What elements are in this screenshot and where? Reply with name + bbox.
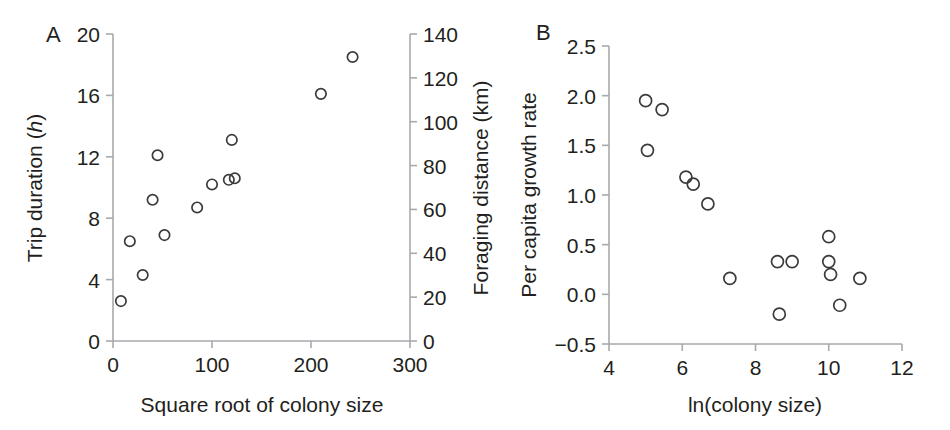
data-point xyxy=(773,308,785,320)
data-point xyxy=(834,299,846,311)
data-point xyxy=(854,272,866,284)
panel-b-ytick-2-0: 2.0 xyxy=(567,85,596,108)
panel-a-xtick-300: 300 xyxy=(392,353,427,376)
data-point xyxy=(680,171,692,183)
panel-b-ytick-0-5: 0.5 xyxy=(567,234,596,257)
panel-a-ytick-right-20: 20 xyxy=(423,286,446,309)
panel-a-left-axis-title: Trip duration (h) xyxy=(23,114,46,263)
panel-b-xtick-4: 4 xyxy=(603,356,615,379)
panel-b-ytick-1-5: 1.5 xyxy=(567,134,596,157)
panel-b-plot: B 2.5 2.0 1.5 1.0 0.5 0.0 −0.5 xyxy=(500,0,950,430)
svg-text:Trip duration (h): Trip duration (h) xyxy=(23,114,46,263)
panel-a-x-tick-labels: 0 100 200 300 xyxy=(107,353,427,376)
panel-b-ytick-0-0: 0.0 xyxy=(567,283,596,306)
data-point xyxy=(825,268,837,280)
data-point xyxy=(724,272,736,284)
data-point xyxy=(192,202,202,212)
data-point xyxy=(702,198,714,210)
panel-a-ytick-right-100: 100 xyxy=(423,111,458,134)
panel-a-xtick-0: 0 xyxy=(107,353,119,376)
panel-b-ytick-neg0-5: −0.5 xyxy=(555,333,596,356)
panel-b-xtick-6: 6 xyxy=(676,356,688,379)
data-point xyxy=(207,179,217,189)
data-point xyxy=(147,195,157,205)
panel-b-x-ticks xyxy=(609,344,902,351)
panel-a-ytick-right-0: 0 xyxy=(423,330,435,353)
data-point xyxy=(823,256,835,268)
panel-a-x-ticks xyxy=(113,341,410,348)
panel-a-xtick-100: 100 xyxy=(194,353,229,376)
panel-a-ytick-right-140: 140 xyxy=(423,23,458,46)
panel-a-ytick-8: 8 xyxy=(88,207,100,230)
panel-a-right-tick-labels: 140 120 100 80 60 40 20 0 xyxy=(423,23,458,353)
panel-a-letter: A xyxy=(46,22,61,47)
panel-a-ytick-right-40: 40 xyxy=(423,242,446,265)
panel-b-x-axis-title: ln(colony size) xyxy=(688,393,822,416)
panel-a-left-tick-labels: 20 16 12 8 4 0 xyxy=(77,23,101,353)
panel-a-ytick-0: 0 xyxy=(88,330,100,353)
panel-a-ytick-16: 16 xyxy=(77,84,100,107)
data-point xyxy=(138,270,148,280)
panel-b-xtick-8: 8 xyxy=(750,356,762,379)
data-point xyxy=(656,104,668,116)
panel-b-xtick-10: 10 xyxy=(817,356,840,379)
data-point xyxy=(125,236,135,246)
panel-b-letter: B xyxy=(536,20,551,45)
panel-b-x-tick-labels: 4 6 8 10 12 xyxy=(603,356,914,379)
panel-a-ytick-right-120: 120 xyxy=(423,67,458,90)
panel-a-ytick-20: 20 xyxy=(77,23,100,46)
data-point xyxy=(771,256,783,268)
panel-a-ytick-4: 4 xyxy=(88,269,100,292)
data-point xyxy=(823,231,835,243)
panel-b: B 2.5 2.0 1.5 1.0 0.5 0.0 −0.5 xyxy=(500,0,950,430)
svg-text:Foraging distance (km): Foraging distance (km) xyxy=(469,81,492,296)
panel-b-y-axis-title: Per capita growth rate xyxy=(517,92,540,297)
panel-b-data-points xyxy=(640,95,866,321)
data-point xyxy=(316,89,326,99)
data-point xyxy=(347,52,357,62)
data-point xyxy=(641,144,653,156)
panel-a-right-ticks xyxy=(410,34,417,341)
panel-b-ytick-1-0: 1.0 xyxy=(567,184,596,207)
panel-a-ytick-right-80: 80 xyxy=(423,155,446,178)
panel-a-plot: A 20 16 12 8 4 0 xyxy=(0,0,500,430)
panel-a-right-axis-title: Foraging distance (km) xyxy=(469,81,492,296)
panel-a-left-ticks xyxy=(106,34,113,341)
panel-b-y-ticks xyxy=(602,46,609,344)
panel-a-data-points xyxy=(116,52,358,306)
panel-b-y-tick-labels: 2.5 2.0 1.5 1.0 0.5 0.0 −0.5 xyxy=(555,35,596,356)
svg-text:Per capita growth rate: Per capita growth rate xyxy=(517,92,540,297)
data-point xyxy=(640,95,652,107)
data-point xyxy=(227,135,237,145)
panel-a-x-axis-title: Square root of colony size xyxy=(141,393,384,416)
data-point xyxy=(159,230,169,240)
panel-b-xtick-12: 12 xyxy=(890,356,913,379)
panel-a-left-title-suffix: ) xyxy=(23,114,46,121)
panel-a-ytick-right-60: 60 xyxy=(423,198,446,221)
panel-a-ytick-12: 12 xyxy=(77,146,100,169)
panel-a: A 20 16 12 8 4 0 xyxy=(0,0,500,430)
panel-b-ytick-2-5: 2.5 xyxy=(567,35,596,58)
data-point xyxy=(152,150,162,160)
data-point xyxy=(116,296,126,306)
panel-a-left-title-italic: h xyxy=(23,121,46,133)
data-point xyxy=(230,173,240,183)
data-point xyxy=(687,178,699,190)
data-point xyxy=(786,256,798,268)
panel-a-left-title-prefix: Trip duration ( xyxy=(23,132,46,262)
figure-container: A 20 16 12 8 4 0 xyxy=(0,0,950,430)
panel-a-xtick-200: 200 xyxy=(293,353,328,376)
